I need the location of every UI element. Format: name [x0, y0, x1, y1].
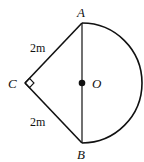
segment-cb [25, 83, 82, 143]
label-a: A [76, 5, 85, 20]
label-b: B [77, 147, 85, 162]
label-c: C [8, 76, 17, 91]
label-ca-length: 2m [30, 41, 46, 55]
right-angle-marker [25, 78, 34, 87]
geometry-diagram: A B C O 2m 2m [0, 0, 144, 162]
center-point-o [79, 80, 86, 87]
semicircle-arc [82, 23, 142, 143]
label-o: O [92, 76, 102, 91]
label-cb-length: 2m [30, 115, 46, 129]
